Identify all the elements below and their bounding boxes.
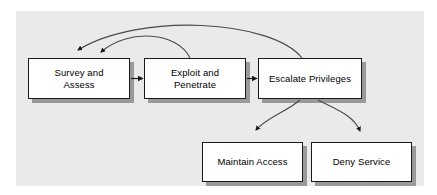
node-maintain-access[interactable]: Maintain Access — [202, 142, 303, 182]
node-label-escalate: Escalate Privileges — [266, 73, 354, 85]
node-label-survey: Survey and Assess — [51, 67, 106, 91]
node-deny-service[interactable]: Deny Service — [311, 142, 412, 182]
node-label-deny: Deny Service — [330, 156, 394, 168]
node-label-exploit: Exploit and Penetrate — [168, 67, 222, 91]
node-survey-and-assess[interactable]: Survey and Assess — [28, 58, 130, 99]
node-escalate-privileges[interactable]: Escalate Privileges — [258, 58, 362, 99]
diagram-root: Survey and Assess Exploit and Penetrate … — [0, 0, 437, 195]
node-exploit-and-penetrate[interactable]: Exploit and Penetrate — [144, 58, 246, 99]
node-label-maintain: Maintain Access — [214, 156, 290, 168]
